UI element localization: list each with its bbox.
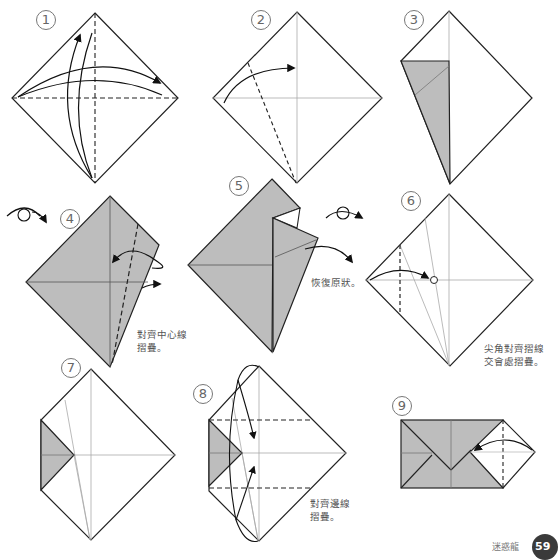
step-5-note: 恢復原狀。 <box>311 276 361 289</box>
step-number-8: 8 <box>193 384 213 404</box>
step-9-diagram <box>401 420 535 488</box>
page-number-badge: 59 <box>532 534 558 560</box>
step-number-1: 1 <box>36 10 56 30</box>
step-number-3: 3 <box>404 10 424 30</box>
step-1-diagram <box>12 13 178 183</box>
step-7-diagram <box>41 369 175 540</box>
step-5-diagram <box>188 179 362 352</box>
step-4-note: 對齊中心線 摺疊。 <box>137 328 187 354</box>
step-number-6: 6 <box>401 191 421 211</box>
step-number-7: 7 <box>61 358 81 378</box>
step-8-note: 對齊邊線 摺疊。 <box>310 497 350 523</box>
step-number-4: 4 <box>60 209 80 229</box>
chapter-label: 迷惑龍 <box>492 540 519 553</box>
step-6-diagram <box>366 194 533 366</box>
step-number-5: 5 <box>229 176 249 196</box>
step-number-9: 9 <box>392 396 412 416</box>
step-6-note: 尖角對齊摺線 交會處摺疊。 <box>484 342 544 368</box>
step-3-diagram <box>401 11 532 184</box>
step-2-diagram <box>213 12 382 183</box>
step-number-2: 2 <box>251 10 271 30</box>
